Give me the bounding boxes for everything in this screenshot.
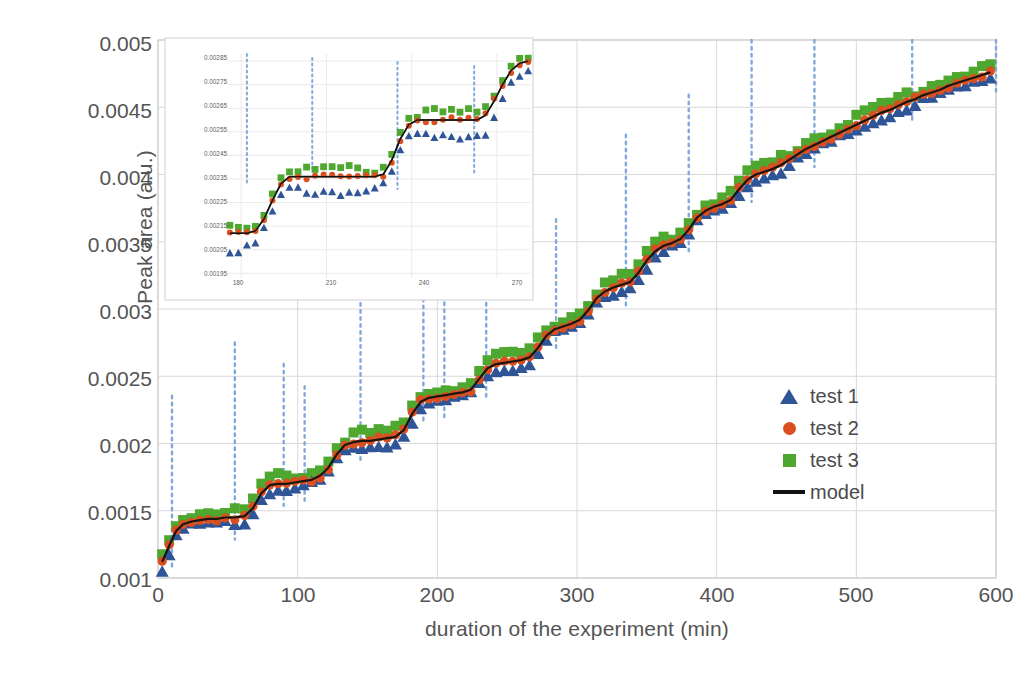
inset-x-tick-label: 210 [311,279,351,286]
inset-y-tick-label: 0.00265 [165,102,227,109]
inset-y-tick-label: 0.00235 [165,174,227,181]
inset-y-tick-label: 0.00205 [165,246,227,253]
legend-item-test-1: test 1 [772,380,922,412]
legend-label: test 3 [806,449,859,472]
legend-label: test 1 [806,385,859,408]
inset-y-tick-label: 0.00225 [165,198,227,205]
legend-label: model [806,481,864,504]
legend-item-test-2: test 2 [772,412,922,444]
inset-y-tick-label: 0.00255 [165,126,227,133]
inset-x-tick-label: 270 [497,279,537,286]
chart-legend: test 1 test 2 test 3 model [772,380,922,508]
inset-x-tick-label: 180 [218,279,258,286]
inset-y-tick-label: 0.00285 [165,54,227,61]
square-marker-icon [772,454,806,467]
triangle-marker-icon [772,389,806,404]
circle-marker-icon [772,422,806,435]
inset-x-tick-label: 240 [404,279,444,286]
inset-plot: 0.00285 0.00275 0.00265 0.00255 0.00245 … [163,36,535,302]
inset-y-tick-label: 0.00215 [165,222,227,229]
inset-y-tick-labels: 0.00285 0.00275 0.00265 0.00255 0.00245 … [163,36,227,302]
legend-item-model: model [772,476,922,508]
line-marker-icon [772,490,806,494]
inset-y-tick-label: 0.00275 [165,78,227,85]
inset-y-tick-label: 0.00245 [165,150,227,157]
legend-item-test-3: test 3 [772,444,922,476]
inset-y-tick-label: 0.00195 [165,270,227,277]
legend-label: test 2 [806,417,859,440]
